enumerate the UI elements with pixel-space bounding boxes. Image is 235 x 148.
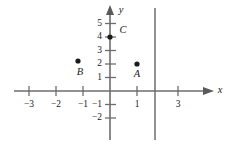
y-axis-arrow-icon (106, 5, 114, 15)
y-tick-label-3: 3 (97, 45, 102, 55)
y-tick-label-4: 4 (97, 31, 102, 41)
data-point-c-label: C (119, 24, 127, 35)
x-tick-label-neg2: −2 (51, 99, 61, 109)
x-tick-label-neg3: −3 (24, 99, 34, 109)
data-point-a-label: A (133, 68, 141, 79)
data-point-b (75, 58, 80, 63)
x-tick-label-neg1: −1 (78, 99, 88, 109)
y-tick-label-5: 5 (97, 18, 102, 28)
coordinate-plane-figure: −3 −2 −1 1 3 5 4 3 2 1 −1 −2 x y A B C (0, 0, 235, 148)
x-axis-label: x (217, 84, 223, 95)
y-tick-label-neg1: −1 (92, 99, 102, 109)
data-point-a (134, 61, 139, 66)
plot-canvas: −3 −2 −1 1 3 5 4 3 2 1 −1 −2 x y A B C (0, 0, 235, 148)
x-tick-label-1: 1 (135, 99, 140, 109)
x-axis-arrow-icon (203, 87, 214, 95)
data-point-b-label: B (77, 66, 84, 77)
y-axis-label: y (118, 4, 124, 15)
y-tick-label-1: 1 (97, 72, 102, 82)
data-point-c (107, 34, 112, 39)
x-tick-label-3: 3 (176, 99, 181, 109)
y-tick-label-neg2: −2 (92, 112, 102, 122)
y-tick-label-2: 2 (97, 58, 102, 68)
